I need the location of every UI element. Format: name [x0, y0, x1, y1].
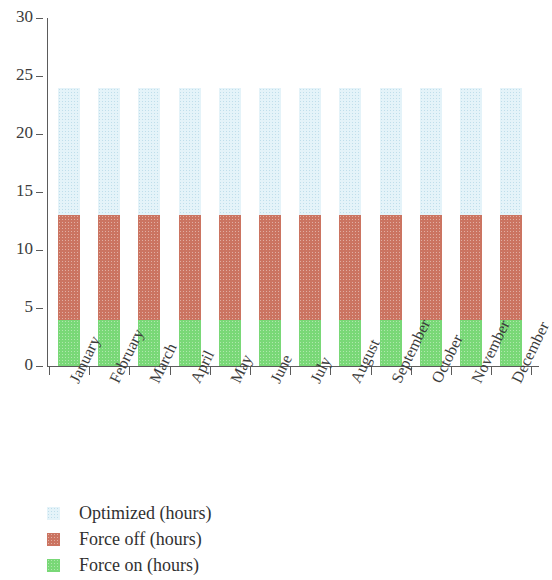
bar-segment-force-off[interactable]: [339, 215, 361, 319]
bar-segment-force-off[interactable]: [420, 215, 442, 319]
bar-segment-optimized[interactable]: [259, 88, 281, 216]
legend-item-optimized[interactable]: Optimized (hours): [47, 500, 347, 526]
bar-segment-force-off[interactable]: [299, 215, 321, 319]
bar-group-october[interactable]: [420, 18, 442, 366]
bar-segment-force-off[interactable]: [138, 215, 160, 319]
legend-item-label: Force on (hours): [79, 555, 199, 575]
bar-segment-optimized[interactable]: [98, 88, 120, 216]
y-axis-tick-label: 10: [16, 239, 33, 259]
bar-group-april[interactable]: [179, 18, 201, 366]
y-axis-tick-mark: [36, 192, 43, 193]
bar-group-november[interactable]: [460, 18, 482, 366]
y-axis-tick-mark: [36, 250, 43, 251]
bar-group-december[interactable]: [500, 18, 522, 366]
bar-segment-force-off[interactable]: [380, 215, 402, 319]
y-axis-tick-mark: [36, 308, 43, 309]
bar-segment-optimized[interactable]: [219, 88, 241, 216]
y-axis-tick-mark: [36, 18, 43, 19]
bar-segment-force-off[interactable]: [98, 215, 120, 319]
bar-group-july[interactable]: [299, 18, 321, 366]
legend-item-force-on[interactable]: Force on (hours): [47, 552, 347, 578]
bar-group-february[interactable]: [98, 18, 120, 366]
y-axis-tick-label: 25: [16, 65, 33, 85]
bar-segment-optimized[interactable]: [138, 88, 160, 216]
bar-group-september[interactable]: [380, 18, 402, 366]
bar-segment-force-off[interactable]: [179, 215, 201, 319]
bar-segment-optimized[interactable]: [380, 88, 402, 216]
bar-group-january[interactable]: [58, 18, 80, 366]
bar-group-june[interactable]: [259, 18, 281, 366]
bar-segment-optimized[interactable]: [420, 88, 442, 216]
bar-segment-optimized[interactable]: [179, 88, 201, 216]
y-axis-tick-mark: [36, 76, 43, 77]
bar-group-august[interactable]: [339, 18, 361, 366]
y-axis-tick-label: 5: [25, 297, 34, 317]
bar-group-may[interactable]: [219, 18, 241, 366]
bar-segment-optimized[interactable]: [460, 88, 482, 216]
x-axis-tick-mark: [49, 367, 50, 375]
bar-segment-force-off[interactable]: [500, 215, 522, 319]
y-axis-tick-label: 30: [16, 7, 33, 27]
y-axis-tick-mark: [36, 134, 43, 135]
bar-group-march[interactable]: [138, 18, 160, 366]
bar-segment-force-off[interactable]: [259, 215, 281, 319]
legend-swatch-optimized: [47, 507, 60, 520]
y-axis-tick-label: 15: [16, 181, 33, 201]
plot-area: [47, 18, 542, 366]
y-axis-tick-mark: [36, 366, 43, 367]
legend-item-label: Force off (hours): [79, 529, 202, 549]
bar-segment-force-off[interactable]: [219, 215, 241, 319]
legend-item-force-off[interactable]: Force off (hours): [47, 526, 347, 552]
y-axis-tick-label: 0: [25, 355, 34, 375]
y-axis-tick-label: 20: [16, 123, 33, 143]
bar-segment-force-off[interactable]: [58, 215, 80, 319]
bar-segment-force-off[interactable]: [460, 215, 482, 319]
bar-segment-optimized[interactable]: [500, 88, 522, 216]
legend-item-label: Optimized (hours): [79, 503, 211, 523]
chart-legend: Optimized (hours)Force off (hours)Force …: [47, 500, 347, 578]
bar-segment-optimized[interactable]: [339, 88, 361, 216]
legend-swatch-force-off: [47, 533, 60, 546]
bar-segment-optimized[interactable]: [299, 88, 321, 216]
legend-swatch-force-on: [47, 559, 60, 572]
bar-segment-optimized[interactable]: [58, 88, 80, 216]
stacked-bar-chart: 051015202530 JanuaryFebruaryMarchAprilMa…: [0, 0, 552, 580]
